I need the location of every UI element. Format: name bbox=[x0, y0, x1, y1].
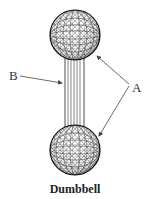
arrow-b bbox=[20, 76, 62, 83]
dumbbell-diagram: B A Dumbbell bbox=[0, 0, 151, 199]
bottom-sphere bbox=[50, 125, 100, 175]
dumbbell-bar bbox=[65, 56, 84, 132]
arrow-a-bottom bbox=[99, 86, 129, 136]
label-a: A bbox=[132, 80, 142, 95]
top-sphere bbox=[50, 10, 100, 60]
arrow-a-top bbox=[97, 56, 129, 84]
label-b: B bbox=[9, 68, 18, 83]
figure-caption: Dumbbell bbox=[50, 182, 101, 196]
